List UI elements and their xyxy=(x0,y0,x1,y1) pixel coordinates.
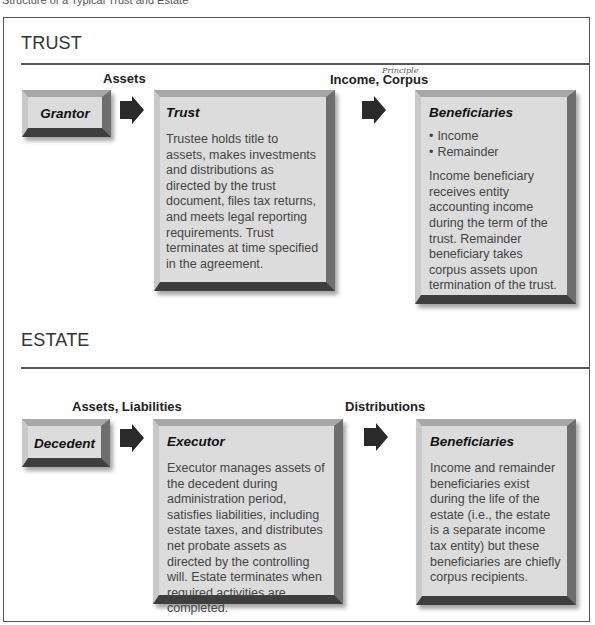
trust-section-title: TRUST xyxy=(21,33,82,54)
grantor-title: Grantor xyxy=(28,107,102,121)
decedent-title: Decedent xyxy=(28,437,101,451)
list-item: Remainder xyxy=(429,145,561,161)
figure-caption: Structure of a Typical Trust and Estate xyxy=(2,0,188,6)
estate-flow-label-distributions: Distributions xyxy=(345,399,425,414)
trust-beneficiaries-box: Beneficiaries Income Remainder Income be… xyxy=(415,90,576,304)
trust-box-title: Trust xyxy=(166,105,320,120)
trust-beneficiaries-description: Income beneficiary receives entity accou… xyxy=(429,169,561,294)
trust-divider xyxy=(21,63,589,65)
trust-beneficiaries-title: Beneficiaries xyxy=(429,105,561,120)
estate-beneficiaries-box: Beneficiaries Income and remainder benef… xyxy=(416,419,576,605)
list-item: Income xyxy=(429,129,561,145)
estate-beneficiaries-title: Beneficiaries xyxy=(430,434,561,449)
trust-flow-label-assets: Assets xyxy=(103,71,146,86)
decedent-box: Decedent xyxy=(22,419,110,467)
arrow-right-icon xyxy=(120,96,144,124)
beneficiary-types-list: Income Remainder xyxy=(429,129,561,160)
executor-title: Executor xyxy=(167,434,328,449)
arrow-right-icon xyxy=(364,423,388,451)
grantor-box: Grantor xyxy=(22,90,111,137)
trust-box: Trust Trustee holds title to assets, mak… xyxy=(154,90,335,291)
trust-box-description: Trustee holds title to assets, makes inv… xyxy=(166,132,320,272)
executor-box: Executor Executor manages assets of the … xyxy=(153,419,343,604)
estate-flow-label-assets-liabilities: Assets, Liabilities xyxy=(72,399,182,414)
trust-flow-label-income-corpus: Income, Corpus xyxy=(330,72,428,87)
arrow-right-icon xyxy=(120,424,144,452)
estate-divider xyxy=(21,367,589,369)
arrow-right-icon xyxy=(362,96,386,124)
estate-section-title: ESTATE xyxy=(21,330,90,351)
estate-beneficiaries-description: Income and remainder beneficiaries exist… xyxy=(430,461,561,586)
executor-description: Executor manages assets of the decedent … xyxy=(167,461,328,617)
